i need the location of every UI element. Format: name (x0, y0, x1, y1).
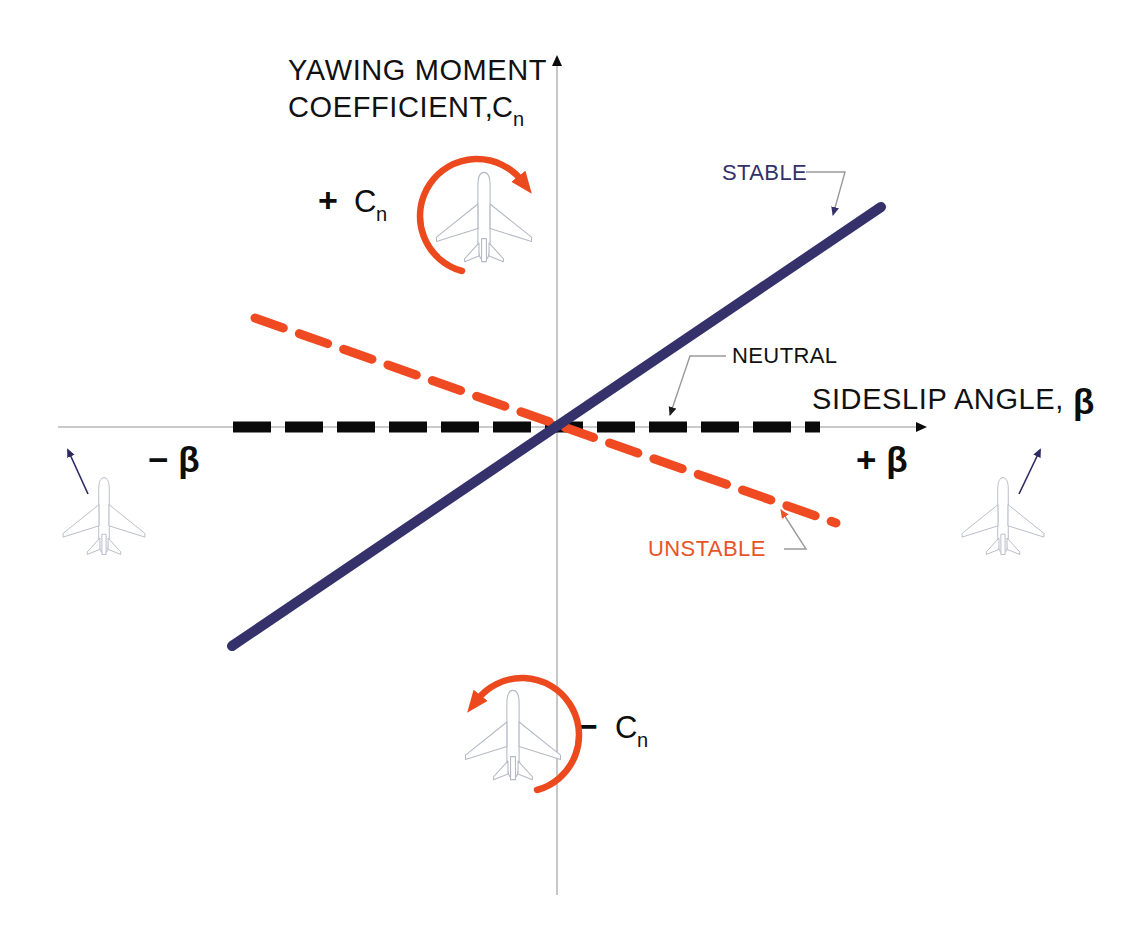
y-axis-title-line1: YAWING MOMENT (288, 54, 547, 86)
negative-cn-annotation: − C n (578, 707, 648, 751)
callout-stable: STABLE (722, 160, 845, 215)
diagram-canvas: YAWING MOMENT COEFFICIENT, C n SIDESLIP … (0, 0, 1128, 941)
callout-unstable-label: UNSTABLE (648, 536, 766, 561)
callout-neutral-leader (670, 356, 726, 415)
positive-cn-annotation: + C n (318, 181, 387, 225)
x-axis-title-symbol: β (1073, 382, 1094, 421)
y-axis-title-symbol: C (492, 91, 514, 123)
aircraft-top-view-icon-upper (436, 172, 531, 261)
relative-wind-arrow-icon-left (68, 450, 88, 494)
x-axis-title: SIDESLIP ANGLE, β (812, 382, 1094, 421)
aircraft-right-group (962, 450, 1044, 554)
positive-cn-symbol: C (354, 184, 376, 219)
y-axis-title-subscript: n (513, 108, 524, 130)
relative-wind-arrow-icon-right (1019, 450, 1040, 494)
yaw-right-icon-group (420, 159, 531, 271)
y-axis-title-line2: COEFFICIENT, (288, 91, 493, 123)
aircraft-top-view-icon-right (962, 478, 1044, 555)
positive-beta-annotation: + β (856, 440, 908, 479)
negative-cn-subscript: n (637, 729, 648, 751)
x-axis-title-text: SIDESLIP ANGLE, (812, 383, 1064, 415)
negative-beta-label: − β (148, 440, 200, 479)
aircraft-left-group (63, 450, 145, 554)
positive-cn-sign: + (318, 181, 338, 219)
negative-beta-annotation: − β (148, 440, 200, 479)
yaw-stability-diagram: YAWING MOMENT COEFFICIENT, C n SIDESLIP … (0, 0, 1128, 941)
callout-stable-label: STABLE (722, 160, 807, 185)
aircraft-top-view-icon-lower (465, 690, 560, 779)
aircraft-top-view-icon-left (63, 478, 145, 555)
negative-cn-symbol: C (615, 710, 637, 745)
positive-beta-label: + β (856, 440, 908, 479)
positive-cn-subscript: n (376, 203, 387, 225)
yaw-left-icon-group (465, 678, 578, 790)
callout-stable-leader (806, 172, 845, 215)
y-axis-title: YAWING MOMENT COEFFICIENT, C n (288, 54, 547, 130)
callout-neutral-label: NEUTRAL (732, 343, 838, 368)
callout-unstable: UNSTABLE (648, 510, 806, 561)
